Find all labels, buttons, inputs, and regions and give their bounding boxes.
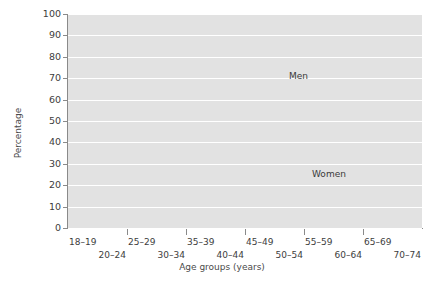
y-axis-tick-mark	[63, 207, 67, 208]
plot-area	[68, 14, 422, 228]
gridline	[68, 14, 422, 15]
y-axis-tick-mark	[63, 100, 67, 101]
y-axis-tick-label: 60	[49, 95, 61, 105]
series-label-women: Women	[312, 169, 346, 179]
y-axis-tick-label: 80	[49, 52, 61, 62]
x-axis-category-label: 50–54	[276, 250, 303, 260]
x-axis-category-label: 18–19	[69, 237, 96, 247]
x-axis-category-label: 65–69	[364, 237, 391, 247]
x-axis-tick-mark	[363, 229, 364, 235]
y-axis-tick-label: 20	[49, 180, 61, 190]
y-axis-tick-mark	[63, 185, 67, 186]
series-label-men: Men	[289, 71, 308, 81]
y-axis-tick-mark	[63, 14, 67, 15]
gridline	[68, 207, 422, 208]
x-axis-category-label: 40–44	[217, 250, 244, 260]
x-axis-category-label: 70–74	[394, 250, 421, 260]
gridline	[68, 78, 422, 79]
gridline	[68, 100, 422, 101]
x-axis-tick-mark	[186, 229, 187, 235]
gridline	[68, 57, 422, 58]
y-axis-tick-mark	[63, 121, 67, 122]
gridline	[68, 121, 422, 122]
y-axis-tick-label: 40	[49, 137, 61, 147]
y-axis-tick-mark	[63, 164, 67, 165]
y-axis-title: Percentage	[13, 93, 23, 173]
x-axis-category-label: 25–29	[128, 237, 155, 247]
x-axis-tick-mark	[245, 229, 246, 235]
y-axis-tick-mark	[63, 228, 67, 229]
y-axis-tick-mark	[63, 142, 67, 143]
gridline	[68, 142, 422, 143]
y-axis-tick-label: 50	[49, 116, 61, 126]
y-axis-tick-label: 0	[55, 223, 61, 233]
y-axis-tick-label: 70	[49, 73, 61, 83]
gridline	[68, 35, 422, 36]
x-axis-category-label: 20–24	[99, 250, 126, 260]
chart-container: Percentage 0102030405060708090100 18–192…	[0, 0, 444, 293]
x-axis-tick-mark	[304, 229, 305, 235]
y-axis-tick-label: 100	[43, 9, 61, 19]
x-axis-category-label: 35–39	[187, 237, 214, 247]
gridline	[68, 185, 422, 186]
x-axis-category-label: 45–49	[246, 237, 273, 247]
gridline	[68, 164, 422, 165]
y-axis-tick-mark	[63, 78, 67, 79]
y-axis-tick-label: 30	[49, 159, 61, 169]
y-axis-tick-label: 90	[49, 30, 61, 40]
y-axis-tick-mark	[63, 35, 67, 36]
x-axis-tick-mark	[127, 229, 128, 235]
x-axis-category-label: 60–64	[335, 250, 362, 260]
y-axis-tick-label: 10	[49, 202, 61, 212]
y-axis-tick-mark	[63, 57, 67, 58]
x-axis-title: Age groups (years)	[0, 262, 444, 272]
x-axis-category-label: 30–34	[158, 250, 185, 260]
x-axis-category-label: 55–59	[305, 237, 332, 247]
